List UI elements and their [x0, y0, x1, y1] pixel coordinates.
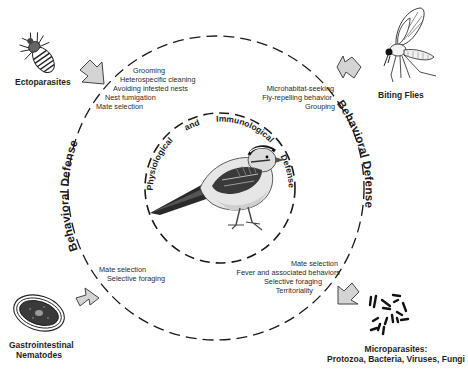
- bird-icon: [150, 147, 284, 230]
- nematodes-label: Gastrointestinal Nematodes: [9, 340, 69, 360]
- behavior-item: Fly-repelling behavior: [245, 93, 332, 102]
- behavior-item: Fever and associated behaviors: [215, 268, 340, 277]
- arrow-biting-flies: [337, 56, 361, 78]
- behavior-item: Mate selection: [95, 102, 195, 111]
- fly-icon: [384, 8, 436, 82]
- behavioral-defense-label-right: Behavioral Defense: [335, 98, 376, 209]
- behavior-item: Avoiding infested nests: [95, 84, 195, 93]
- nematode-behaviors: Mate selection Selective foraging: [99, 265, 165, 283]
- microparasites-label: Microparasites: Protozoa, Bacteria, Viru…: [324, 344, 468, 364]
- behavior-item: Mate selection: [99, 265, 165, 274]
- nematodes-label-line2: Nematodes: [9, 350, 69, 360]
- behavior-item: Territoriality: [215, 286, 313, 295]
- microbes-icon: [370, 295, 408, 334]
- arrow-nematodes: [76, 288, 99, 306]
- nematode-egg-icon: [9, 289, 69, 337]
- microparasite-behaviors: Mate selection Fever and associated beha…: [215, 259, 340, 295]
- behavior-item: Microhabitat-seeking: [245, 84, 334, 93]
- biting-flies-label: Biting Flies: [378, 90, 424, 100]
- ectoparasites-label: Ectoparasites: [15, 77, 71, 87]
- biting-fly-behaviors: Microhabitat-seeking Fly-repelling behav…: [245, 84, 333, 111]
- behavior-item: Mate selection: [215, 259, 338, 268]
- behavior-item: Grouping: [245, 102, 335, 111]
- microparasites-label-line1: Microparasites:: [324, 344, 468, 354]
- behavior-item: Grooming: [95, 66, 195, 75]
- louse-icon: [14, 27, 64, 80]
- behavior-item: Selective foraging: [99, 274, 165, 283]
- behavioral-defense-label-left: Behavioral Defense: [58, 138, 80, 253]
- arrow-microparasites: [338, 283, 359, 304]
- behavior-item: Selective foraging: [215, 277, 322, 286]
- nematodes-label-line1: Gastrointestinal: [9, 340, 69, 350]
- microparasites-label-line2: Protozoa, Bacteria, Viruses, Fungi: [324, 354, 468, 364]
- behavior-item: Nest fumigation: [95, 93, 195, 102]
- ectoparasite-behaviors: Grooming Heterospecific cleaning Avoidin…: [95, 66, 195, 111]
- diagram-canvas: Behavioral Defense Behavioral Defense Ph…: [0, 0, 468, 375]
- behavior-item: Heterospecific cleaning: [95, 75, 195, 84]
